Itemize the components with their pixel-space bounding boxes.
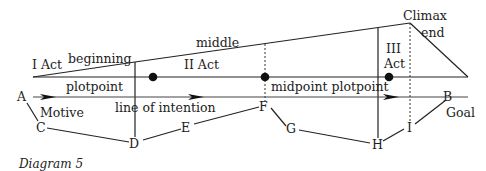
point-b-label: B (443, 89, 452, 104)
point-g-label: G (286, 121, 296, 136)
climax-label: Climax (403, 8, 447, 23)
point-d-label: D (129, 136, 139, 151)
act-three-label-line2: Act (383, 56, 405, 71)
point-i-label: I (407, 120, 412, 135)
line-of-intention-label: line of intention (115, 100, 216, 115)
motive-label: Motive (40, 105, 84, 120)
point-c-label: C (36, 120, 46, 135)
act-two-label: II Act (184, 57, 219, 72)
path-segment-h-i (383, 129, 404, 141)
beginning-label: beginning (68, 51, 132, 66)
goal-label: Goal (446, 105, 475, 120)
point-a-label: A (16, 89, 27, 104)
act-one-label: I Act (32, 57, 62, 72)
story-structure-diagram: I Act beginning middle II Act III Act Cl… (0, 0, 486, 171)
path-segment-a-c (27, 103, 38, 121)
point-e-label: E (181, 120, 190, 135)
midpoint-plotpoint-label: midpoint plotpoint (271, 79, 389, 94)
path-segment-c-d (47, 128, 129, 142)
diagram-caption: Diagram 5 (18, 157, 83, 171)
plotpoint-label: plotpoint (66, 79, 123, 94)
rising-action-line (33, 23, 410, 77)
point-f-label: F (259, 99, 268, 114)
plotpoint-dot-1 (149, 73, 158, 82)
plotpoint-dot-midpoint (261, 73, 270, 82)
act-three-label-line1: III (386, 41, 401, 56)
point-h-label: H (372, 137, 383, 152)
path-segment-i-b (415, 100, 446, 124)
path-segment-g-h (299, 130, 370, 143)
middle-label: middle (196, 35, 239, 50)
path-segment-f-g (271, 108, 286, 126)
path-segment-d-e (143, 129, 181, 140)
end-label: end (421, 25, 444, 40)
